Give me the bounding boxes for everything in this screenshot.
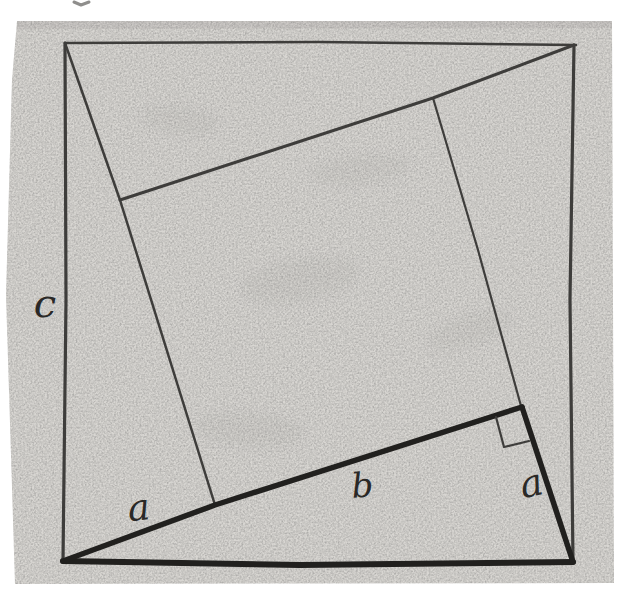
label-a-left: a — [125, 485, 151, 530]
pythagorean-pinwheel-diagram: caba — [0, 0, 618, 605]
stray-mark-top — [74, 2, 89, 5]
label-b: b — [350, 464, 375, 505]
label-c: c — [34, 280, 56, 326]
photo-of-hand-drawn-diagram: caba — [0, 0, 618, 605]
